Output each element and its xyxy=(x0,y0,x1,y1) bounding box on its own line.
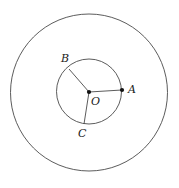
point-label-a: A xyxy=(128,84,136,95)
point-label-b: B xyxy=(61,53,69,64)
figure-canvas xyxy=(0,0,179,188)
radius-OB-line xyxy=(69,69,89,92)
point-a-dot xyxy=(120,88,124,92)
geometry-figure: O A B C xyxy=(0,0,179,188)
radius-OC-line xyxy=(84,92,89,124)
center-label-o: O xyxy=(91,96,100,107)
radius-OA-line xyxy=(89,90,122,92)
point-label-c: C xyxy=(78,128,86,139)
center-point-dot xyxy=(87,90,91,94)
